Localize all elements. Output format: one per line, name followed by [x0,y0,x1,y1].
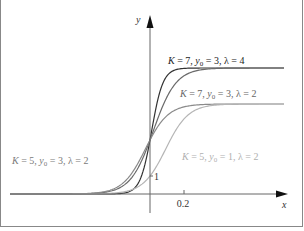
chart-frame [1,0,303,227]
x-tick-label: 0.2 [177,198,190,209]
logistic-growth-chart: 0.2 1 x y K = 7, y0 = 3, λ = 4 K = 7, y0… [0,0,304,231]
y-axis-label: y [135,14,141,25]
x-axis-label: x [281,199,287,210]
y-tick-label: 1 [154,171,159,182]
